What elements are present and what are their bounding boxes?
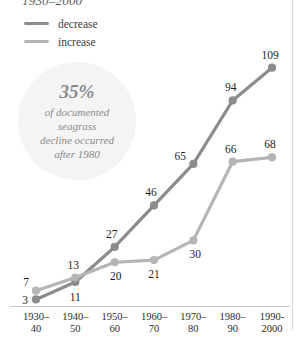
- x-axis-tick-label: 1960–70: [141, 311, 167, 336]
- data-point-label: 109: [261, 49, 278, 61]
- x-axis-line: [10, 306, 290, 307]
- data-point-label: 7: [23, 276, 29, 288]
- x-axis-tick-label: 1950–60: [102, 311, 128, 336]
- data-point-marker: [32, 287, 40, 295]
- data-point-label: 3: [22, 294, 28, 306]
- data-point-label: 46: [145, 186, 157, 198]
- data-point-label: 65: [175, 150, 187, 162]
- data-point-label: 27: [106, 228, 118, 240]
- data-point-marker: [268, 64, 276, 72]
- data-point-label: 68: [264, 138, 276, 150]
- data-point-marker: [150, 201, 158, 209]
- x-axis-tick-label: 1980–90: [220, 311, 246, 336]
- data-point-marker: [111, 243, 119, 251]
- x-axis-tick-label: 1930–40: [23, 311, 49, 336]
- data-point-label: 11: [70, 291, 81, 303]
- x-axis-tick-labels: 1930–401940–501950–601960–701970–801980–…: [0, 311, 306, 341]
- data-point-marker: [268, 153, 276, 161]
- data-point-marker: [111, 258, 119, 266]
- data-point-marker: [229, 96, 237, 104]
- data-point-marker: [189, 160, 197, 168]
- data-point-marker: [229, 158, 237, 166]
- data-point-label: 21: [148, 268, 160, 280]
- x-axis-tick-label: 1940–50: [62, 311, 88, 336]
- data-point-label: 13: [68, 259, 80, 271]
- data-point-label: 20: [110, 270, 122, 282]
- panel-right-border: [292, 0, 293, 330]
- data-point-marker: [32, 295, 40, 303]
- data-point-label: 66: [225, 143, 237, 155]
- data-point-marker: [150, 256, 158, 264]
- x-axis-tick-label: 1970–80: [180, 311, 206, 336]
- data-point-marker: [189, 236, 197, 244]
- chart-page: 1930–2000 decrease increase 35% of docum…: [0, 0, 306, 344]
- data-point-label: 30: [190, 248, 202, 260]
- plot-area: 311274665941097132021306668: [0, 0, 306, 344]
- data-point-marker: [71, 273, 79, 281]
- data-point-label: 94: [225, 81, 237, 93]
- x-axis-tick-label: 1990-2000: [260, 311, 285, 336]
